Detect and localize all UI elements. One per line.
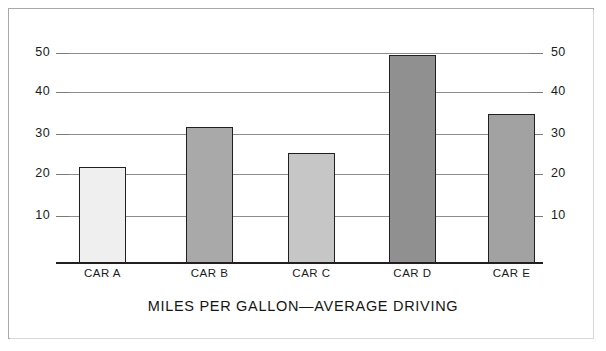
bar-chart: 5040302010 5040302010 CAR ACAR BCAR CCAR… bbox=[0, 0, 606, 351]
figure: 5040302010 5040302010 CAR ACAR BCAR CCAR… bbox=[0, 0, 606, 351]
category-label-car-a: CAR A bbox=[55, 267, 150, 281]
category-label-car-d: CAR D bbox=[365, 267, 460, 281]
category-label-car-e: CAR E bbox=[464, 267, 559, 281]
chart-title: MILES PER GALLON—AVERAGE DRIVING bbox=[0, 298, 606, 314]
category-label-car-c: CAR C bbox=[264, 267, 359, 281]
category-label-car-b: CAR B bbox=[162, 267, 257, 281]
